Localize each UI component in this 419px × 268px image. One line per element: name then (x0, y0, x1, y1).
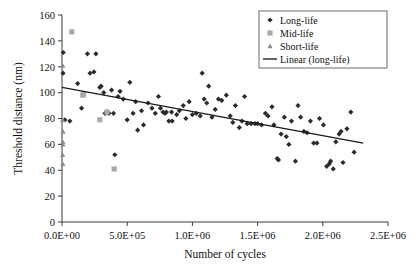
data-point-long-life (278, 131, 283, 136)
data-point-long-life (230, 120, 235, 125)
data-point-long-life (286, 142, 291, 147)
x-tick-label: 0.0E+00 (44, 230, 80, 241)
data-point-long-life (149, 106, 154, 111)
y-tick-label: 20 (45, 191, 56, 202)
data-point-long-life (224, 93, 229, 98)
data-point-long-life (183, 116, 188, 121)
data-point-long-life (93, 51, 98, 56)
data-point-long-life (112, 152, 117, 157)
y-tick-label: 80 (45, 113, 56, 124)
data-point-long-life (109, 87, 114, 92)
data-point-long-life (87, 71, 92, 76)
data-point-long-life (153, 111, 158, 116)
x-tick-label: 2.0E+06 (305, 230, 341, 241)
data-point-long-life (198, 113, 203, 118)
data-point-long-life (156, 94, 161, 99)
legend-label-long-life: Long-life (280, 15, 318, 26)
y-axis-title: Threshold distance (nm) (12, 62, 25, 175)
data-point-long-life (317, 116, 322, 121)
scatter-plot-figure: 0204060801001201401600.0E+005.0E+051.0E+… (0, 0, 419, 268)
data-point-long-life (111, 111, 116, 116)
data-point-long-life (348, 109, 353, 114)
data-point-long-life (127, 80, 132, 85)
data-point-long-life (117, 89, 122, 94)
data-point-long-life (170, 118, 175, 123)
data-point-long-life (130, 111, 135, 116)
data-point-long-life (269, 104, 274, 109)
x-tick-label: 1.0E+06 (174, 230, 210, 241)
legend-label-mid-life: Mid-life (280, 28, 314, 39)
data-point-short-life (60, 63, 65, 68)
chart-canvas: 0204060801001201401600.0E+005.0E+051.0E+… (0, 0, 419, 268)
data-point-long-life (190, 112, 195, 117)
trend-line-long-life (62, 87, 363, 143)
legend-marker-square-icon (267, 30, 272, 35)
data-point-long-life (295, 103, 300, 108)
data-point-long-life (141, 122, 146, 127)
data-point-mid-life (104, 109, 109, 114)
data-point-mid-life (97, 117, 102, 122)
data-point-long-life (139, 108, 144, 113)
data-point-long-life (202, 96, 207, 101)
data-point-short-life (60, 161, 65, 166)
data-point-long-life (233, 103, 238, 108)
x-tick-label: 5.0E+05 (109, 230, 145, 241)
legend-label-short-life: Short-life (280, 41, 319, 52)
data-point-long-life (79, 106, 84, 111)
data-point-long-life (340, 160, 345, 165)
data-point-long-life (242, 94, 247, 99)
data-point-long-life (344, 126, 349, 131)
y-tick-label: 0 (50, 217, 55, 228)
data-point-long-life (60, 71, 65, 76)
data-point-long-life (282, 115, 287, 120)
data-point-long-life (293, 159, 298, 164)
data-point-long-life (135, 128, 140, 133)
x-tick-label: 2.5E+06 (370, 230, 406, 241)
data-point-mid-life (69, 29, 74, 34)
data-point-long-life (321, 122, 326, 127)
y-tick-label: 40 (45, 165, 56, 176)
data-point-long-life (67, 118, 72, 123)
y-tick-label: 140 (39, 36, 55, 47)
x-tick-label: 1.5E+06 (240, 230, 276, 241)
x-axis-title: Number of cycles (184, 248, 266, 261)
data-point-short-life (60, 129, 65, 134)
data-point-long-life (204, 100, 209, 105)
data-point-long-life (331, 166, 336, 171)
data-point-long-life (333, 139, 338, 144)
data-point-long-life (61, 50, 66, 55)
data-point-long-life (213, 107, 218, 112)
legend-label-linear-long-life: Linear (long-life) (280, 54, 350, 66)
y-tick-label: 100 (39, 87, 55, 98)
data-point-long-life (351, 150, 356, 155)
data-point-long-life (289, 118, 294, 123)
y-tick-label: 120 (39, 62, 55, 73)
data-point-long-life (298, 115, 303, 120)
data-point-long-life (181, 103, 186, 108)
data-point-long-life (187, 99, 192, 104)
data-point-long-life (284, 134, 289, 139)
data-point-long-life (169, 109, 174, 114)
data-point-long-life (174, 112, 179, 117)
data-point-long-life (85, 51, 90, 56)
data-point-long-life (125, 117, 130, 122)
y-tick-label: 60 (45, 139, 56, 150)
data-point-long-life (206, 84, 211, 89)
data-point-long-life (308, 118, 313, 123)
data-point-long-life (237, 125, 242, 130)
data-point-mid-life (112, 166, 117, 171)
y-tick-label: 160 (39, 10, 55, 21)
data-point-long-life (314, 140, 319, 145)
data-point-long-life (91, 69, 96, 74)
data-point-long-life (75, 81, 80, 86)
data-point-long-life (200, 71, 205, 76)
data-point-short-life (60, 152, 65, 157)
